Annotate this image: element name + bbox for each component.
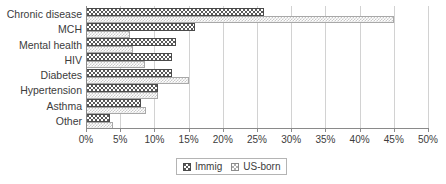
- bar-usborn: [86, 77, 189, 84]
- x-axis-tick: [325, 128, 326, 132]
- category-label: Hypertension: [20, 85, 82, 96]
- bar-immig: [86, 99, 141, 107]
- bar-immig: [86, 8, 264, 16]
- bar-chart: Chronic diseaseMCHMental healthHIVDiabet…: [0, 0, 446, 184]
- x-axis-tick: [394, 128, 395, 132]
- legend-item-usborn: US-born: [231, 161, 280, 172]
- x-axis-tick: [154, 128, 155, 132]
- gridline: [428, 6, 429, 128]
- gridline: [223, 6, 224, 128]
- gridline: [360, 6, 361, 128]
- gridline: [325, 6, 326, 128]
- category-axis-labels: Chronic diseaseMCHMental healthHIVDiabet…: [0, 6, 82, 128]
- legend-swatch-immig-icon: [183, 163, 191, 171]
- bar-usborn: [86, 16, 394, 23]
- bar-immig: [86, 38, 176, 46]
- legend-label-immig: Immig: [195, 161, 222, 172]
- x-axis-tick: [428, 128, 429, 132]
- bar-immig: [86, 114, 110, 122]
- x-axis-tick: [86, 128, 87, 132]
- bar-immig: [86, 84, 158, 92]
- gridline: [291, 6, 292, 128]
- category-label: Diabetes: [41, 70, 82, 81]
- x-axis-tick: [360, 128, 361, 132]
- x-axis-tick: [257, 128, 258, 132]
- legend-item-immig: Immig: [183, 161, 222, 172]
- gridline: [257, 6, 258, 128]
- category-label: Asthma: [46, 101, 82, 112]
- legend-label-usborn: US-born: [243, 161, 280, 172]
- legend-swatch-usborn-icon: [231, 163, 239, 171]
- x-axis-tick-label: 50%: [408, 134, 446, 145]
- category-label: Mental health: [19, 40, 82, 51]
- x-axis-tick: [189, 128, 190, 132]
- bar-usborn: [86, 31, 130, 38]
- plot-area: [86, 6, 428, 128]
- category-label: Chronic disease: [7, 9, 82, 20]
- x-axis-tick: [120, 128, 121, 132]
- gridline: [394, 6, 395, 128]
- bar-immig: [86, 23, 195, 31]
- category-label: MCH: [58, 24, 82, 35]
- chart-legend: Immig US-born: [176, 158, 287, 175]
- bar-immig: [86, 69, 172, 77]
- x-axis-tick: [291, 128, 292, 132]
- bar-usborn: [86, 46, 133, 53]
- x-axis-tick: [223, 128, 224, 132]
- bar-usborn: [86, 107, 146, 114]
- bar-usborn: [86, 61, 145, 68]
- category-label: Other: [56, 116, 82, 127]
- y-axis-line: [86, 6, 87, 129]
- category-label: HIV: [64, 55, 82, 66]
- bar-immig: [86, 53, 172, 61]
- bar-usborn: [86, 92, 158, 99]
